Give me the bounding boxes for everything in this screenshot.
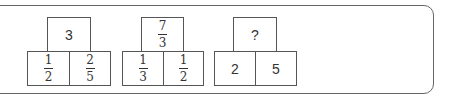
diagram-2-top-cell: 7 3: [141, 17, 184, 52]
diagram-2-bottom-left-cell: 1 3: [122, 51, 164, 86]
diagram-2-bottom-right-cell: 1 2: [163, 51, 204, 86]
fraction: 7 3: [158, 20, 167, 49]
fraction: 2 5: [86, 54, 95, 83]
fraction: 1 2: [44, 54, 53, 83]
diagram-1-bottom-left-cell: 1 2: [27, 51, 70, 86]
fraction: 1 3: [139, 54, 148, 83]
diagram-3-top-cell: ?: [233, 17, 277, 52]
diagram-1-top-cell: 3: [47, 17, 91, 52]
diagram-1-bottom-right-cell: 2 5: [69, 51, 111, 86]
fraction: 1 2: [179, 54, 188, 83]
diagram-1-top-value: 3: [65, 27, 73, 43]
diagram-3-bottom-left-cell: 2: [214, 51, 256, 86]
unknown-value: ?: [251, 27, 259, 43]
diagram-3-bottom-right-cell: 5: [255, 51, 297, 86]
